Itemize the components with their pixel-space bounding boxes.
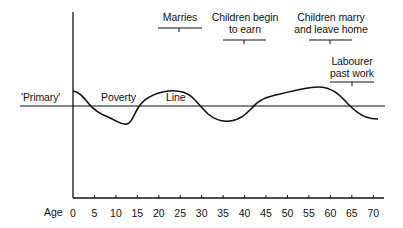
tick-label-10: 10 <box>106 207 126 219</box>
tick-label-65: 65 <box>342 207 362 219</box>
tick-label-70: 70 <box>363 207 383 219</box>
tick-label-45: 45 <box>256 207 276 219</box>
tick-label-40: 40 <box>235 207 255 219</box>
tick-label-0: 0 <box>63 207 83 219</box>
line-label: Line <box>166 92 185 103</box>
labourer-marker <box>330 82 374 86</box>
children-marry-marker <box>309 40 352 44</box>
primary-label: 'Primary' <box>21 92 60 103</box>
tick-label-30: 30 <box>192 207 212 219</box>
tick-label-20: 20 <box>149 207 169 219</box>
labourer-label-2: past work <box>326 68 378 79</box>
tick-label-5: 5 <box>84 207 104 219</box>
children-marry-label-1: Children marry <box>293 12 369 23</box>
tick-label-50: 50 <box>278 207 298 219</box>
tick-label-55: 55 <box>299 207 319 219</box>
children-marry-label-2: and leave home <box>293 24 369 35</box>
poverty-label: Poverty <box>101 92 136 103</box>
tick-label-60: 60 <box>320 207 340 219</box>
children-begin-marker <box>223 40 266 44</box>
marries-marker <box>158 28 202 32</box>
children-begin-label-2: to earn <box>210 24 280 35</box>
labourer-label-1: Labourer <box>326 56 378 67</box>
tick-label-35: 35 <box>213 207 233 219</box>
tick-label-15: 15 <box>127 207 147 219</box>
children-begin-label-1: Children begin <box>210 12 280 23</box>
tick-label-25: 25 <box>170 207 190 219</box>
x-axis-label: Age <box>44 207 62 218</box>
marries-label: Marries <box>160 12 200 23</box>
